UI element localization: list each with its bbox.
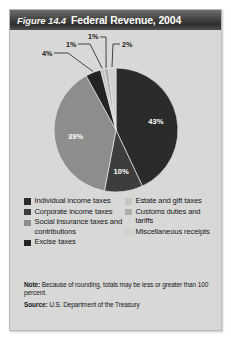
legend-item-label: Estate and gift taxes — [136, 196, 202, 205]
figure-title-bar: Figure 14.4 Federal Revenue, 2004 — [10, 10, 222, 30]
legend-column-left: Individual income taxesCorporate income … — [24, 196, 125, 274]
pie-slice-label: 39% — [68, 132, 83, 141]
pie-callout-label: 4% — [42, 49, 53, 58]
legend-item: Miscellaneous receipts — [125, 227, 217, 236]
figure-title: Federal Revenue, 2004 — [71, 14, 181, 26]
legend-swatch — [125, 209, 132, 216]
legend-swatch — [125, 198, 132, 205]
pie-slice-label: 43% — [148, 117, 163, 126]
legend-item: Customs duties and tariffs — [125, 207, 217, 225]
legend-item-label: Miscellaneous receipts — [136, 227, 210, 236]
pie-chart-area: 43%10%39% 4%1%1%2% — [10, 30, 222, 195]
chart-legend: Individual income taxesCorporate income … — [10, 196, 222, 274]
pie-callout-label: 1% — [66, 40, 77, 49]
legend-column-right: Estate and gift taxesCustoms duties and … — [125, 196, 217, 274]
legend-item-label: Excise taxes — [35, 237, 76, 246]
legend-swatch — [24, 198, 31, 205]
pie-callout-label: 2% — [122, 40, 133, 49]
legend-item: Individual income taxes — [24, 196, 125, 205]
legend-swatch — [24, 220, 31, 227]
legend-swatch — [24, 209, 31, 216]
pie-slice-label: 10% — [113, 167, 128, 176]
rounding-note: Note: Because of rounding, totals may be… — [24, 281, 214, 298]
pie-callout-label: 1% — [88, 32, 99, 41]
note-key: Note: — [24, 281, 40, 288]
figure-container: Figure 14.4 Federal Revenue, 2004 43%10%… — [9, 9, 222, 331]
pie-callout-line — [78, 44, 102, 69]
pie-callout-line — [54, 53, 93, 71]
legend-item: Estate and gift taxes — [125, 196, 217, 205]
figure-number: Figure 14.4 — [17, 15, 66, 26]
note-text: Because of rounding, totals may be less … — [24, 281, 208, 296]
pie-callout-group: 4%1%1%2% — [42, 32, 133, 71]
figure-footnotes: Note: Because of rounding, totals may be… — [24, 281, 214, 309]
legend-swatch — [125, 229, 132, 236]
pie-chart-svg: 43%10%39% 4%1%1%2% — [10, 30, 222, 195]
legend-item: Corporate income taxes — [24, 207, 125, 216]
source-note: Source: U.S. Department of the Treasury — [24, 301, 214, 309]
pie-callout-line — [112, 44, 120, 67]
pie-callout-line — [100, 37, 106, 68]
legend-item: Social insurance taxes and contributions — [24, 217, 125, 235]
legend-swatch — [24, 240, 31, 247]
legend-item: Excise taxes — [24, 237, 125, 246]
source-key: Source: — [24, 301, 48, 308]
legend-item-label: Corporate income taxes — [35, 207, 113, 216]
legend-item-label: Social insurance taxes and contributions — [35, 217, 126, 235]
legend-item-label: Individual income taxes — [35, 196, 111, 205]
legend-item-label: Customs duties and tariffs — [136, 207, 218, 225]
source-text: U.S. Department of the Treasury — [49, 301, 139, 308]
